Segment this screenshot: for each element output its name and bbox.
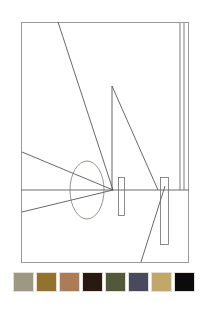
palette-swatch-4[interactable] — [82, 272, 103, 292]
palette-swatch-1[interactable] — [13, 272, 34, 292]
palette-swatch-3[interactable] — [59, 272, 80, 292]
palette-swatch-6[interactable] — [128, 272, 149, 292]
artboard — [0, 0, 210, 310]
color-palette-strip — [13, 272, 199, 294]
drawing-frame — [22, 23, 189, 263]
palette-swatch-2[interactable] — [36, 272, 57, 292]
palette-swatch-5[interactable] — [105, 272, 126, 292]
palette-swatch-7[interactable] — [151, 272, 172, 292]
line-drawing-canvas — [0, 0, 210, 310]
palette-swatch-8[interactable] — [174, 272, 195, 292]
